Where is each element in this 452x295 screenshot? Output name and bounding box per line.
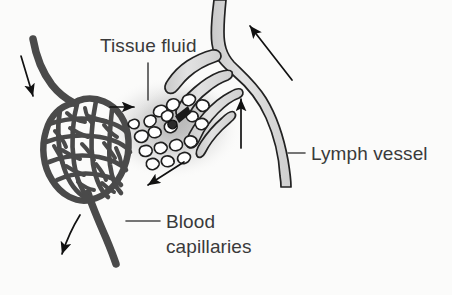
lymph-tissue-fluid-diagram: Tissue fluid Lymph vessel Blood capillar… — [0, 0, 452, 295]
figure-container: Tissue fluid Lymph vessel Blood capillar… — [0, 0, 452, 295]
tissue-fluid-label: Tissue fluid — [100, 35, 197, 56]
lymph-vessel-label: Lymph vessel — [311, 143, 428, 164]
blood-capillaries-label-line1: Blood — [166, 211, 215, 232]
blood-capillaries-label-line2: capillaries — [166, 236, 252, 257]
